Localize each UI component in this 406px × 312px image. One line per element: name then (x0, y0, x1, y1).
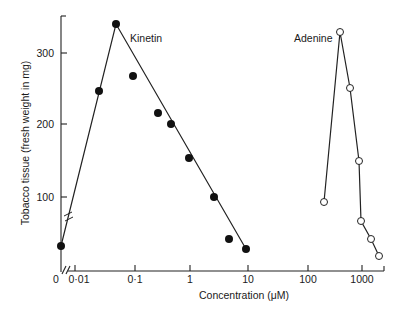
series-adenine: Adenine (294, 29, 383, 260)
x-tick-label: 1000 (350, 273, 374, 285)
y-axis-title: Tobacco tissue (fresh weight in mg) (19, 61, 31, 226)
x-tick-label: 0 (53, 273, 59, 285)
axis-break-icon (62, 266, 66, 274)
x-axis-title: Concentration (μM) (199, 289, 289, 301)
x-tick-label: 100 (299, 273, 317, 285)
chart: 300 200 100 0 0·01 0·1 1 10 100 1000 Con… (0, 0, 406, 312)
y-tick-label: 200 (36, 118, 54, 130)
series-kinetin: Kinetin (57, 20, 250, 253)
x-tick-label: 1 (187, 273, 193, 285)
adenine-line (324, 32, 379, 256)
x-tick-label: 0·1 (127, 273, 142, 285)
kinetin-line (61, 24, 246, 249)
kinetin-label: Kinetin (130, 32, 162, 44)
y-tick-label: 300 (36, 47, 54, 59)
x-tick-label: 0·01 (68, 273, 89, 285)
adenine-label: Adenine (294, 32, 333, 44)
x-tick-label: 10 (242, 273, 254, 285)
axes (61, 16, 384, 274)
y-tick-label: 100 (36, 191, 54, 203)
kinetin-points (57, 20, 250, 253)
